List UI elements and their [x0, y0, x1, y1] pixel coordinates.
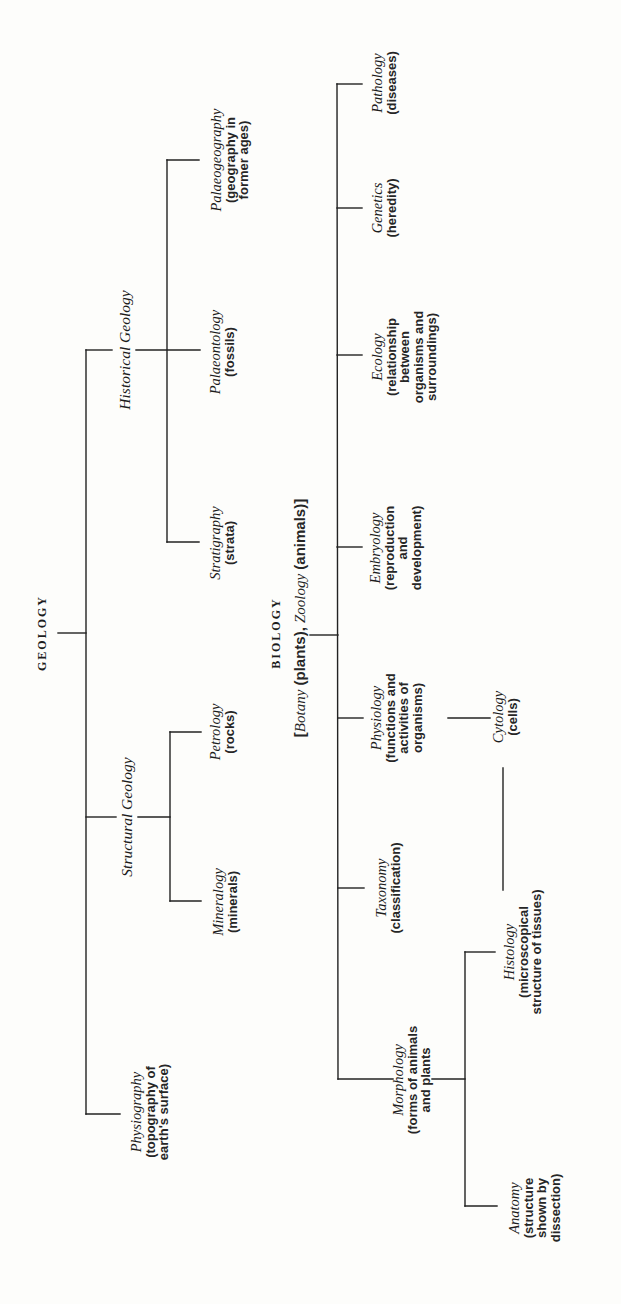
node-cytology: Cytology (cells)	[491, 691, 519, 743]
biology-root-label: BIOLOGY	[269, 597, 284, 668]
historical-geology-label: Historical Geology	[116, 287, 134, 412]
physiology-desc-line1: (functions and	[384, 673, 398, 763]
morphology-desc-line2: and plants	[419, 1026, 433, 1134]
histology-desc-line2: structure of tissues)	[530, 890, 544, 1015]
structural-geology-label: Structural Geology	[118, 754, 136, 879]
genetics-title: Genetics	[370, 178, 385, 237]
pathology-desc: (diseases)	[384, 51, 398, 115]
embryology-desc-line3: development)	[410, 506, 424, 591]
anatomy-desc-line3: dissection)	[549, 1174, 563, 1243]
genetics-desc: (heredity)	[384, 178, 398, 237]
node-genetics: Genetics (heredity)	[370, 178, 398, 237]
mineralogy-title: Mineralogy	[211, 868, 226, 936]
anatomy-desc-line2: shown by	[535, 1174, 549, 1243]
geology-root-label: GEOLOGY	[35, 595, 50, 671]
mineralogy-desc: (minerals)	[225, 868, 239, 936]
node-physiology: Physiology (functions and activities of …	[369, 673, 424, 763]
ecology-title: Ecology	[370, 311, 385, 403]
physiography-title: Physiography	[129, 1064, 144, 1160]
node-physiography: Physiography (topography of earth's surf…	[129, 1064, 171, 1160]
physiography-desc-line1: (topography of	[144, 1064, 158, 1160]
node-pathology: Pathology (diseases)	[370, 51, 398, 115]
biology-subtitle: [Botany (plants), Zoology (animals)]	[291, 499, 309, 737]
botany-label: Botany	[292, 690, 308, 733]
node-palaeontology: Palaeontology (fossils)	[208, 310, 236, 395]
morphology-desc-line1: (forms of animals	[406, 1026, 420, 1134]
physiology-desc-line3: organisms)	[411, 673, 425, 763]
stratigraphy-desc: (strata)	[222, 506, 236, 579]
palaeontology-desc: (fossils)	[222, 310, 236, 395]
cytology-title: Cytology	[491, 691, 506, 743]
palaeontology-title: Palaeontology	[208, 310, 223, 395]
botany-desc: (plants),	[291, 623, 308, 690]
palaeogeography-desc-line2: former ages)	[237, 108, 251, 211]
anatomy-desc-line1: (structure	[522, 1174, 536, 1243]
node-histology: Histology (microscopical structure of ti…	[502, 890, 544, 1015]
node-petrology: Petrology (rocks)	[208, 704, 236, 761]
taxonomy-title: Taxonomy	[374, 842, 389, 933]
palaeogeography-desc-line1: (geography in	[224, 108, 238, 211]
node-stratigraphy: Stratigraphy (strata)	[208, 506, 236, 579]
petrology-title: Petrology	[208, 704, 223, 761]
morphology-title: Morphology	[391, 1026, 406, 1134]
zoology-desc: (animals)]	[291, 499, 308, 574]
tree-connector-lines	[0, 0, 621, 1304]
node-morphology: Morphology (forms of animals and plants	[391, 1026, 433, 1134]
ecology-desc-line4: surroundings)	[426, 311, 440, 403]
embryology-title: Embryology	[368, 506, 383, 591]
ecology-desc-line3: organisms and	[412, 311, 426, 403]
zoology-label: Zoology	[292, 574, 308, 623]
cytology-desc: (cells)	[505, 691, 519, 743]
histology-desc-line1: (microscopical	[517, 890, 531, 1015]
stratigraphy-title: Stratigraphy	[208, 506, 223, 579]
petrology-desc: (rocks)	[222, 704, 236, 761]
node-ecology: Ecology (relationship between organisms …	[370, 311, 439, 403]
ecology-desc-line2: between	[399, 311, 413, 403]
palaeogeography-title: Palaeogeography	[209, 108, 224, 211]
physiology-title: Physiology	[369, 673, 384, 763]
node-embryology: Embryology (reproduction and development…	[368, 506, 423, 591]
node-mineralogy: Mineralogy (minerals)	[211, 868, 239, 936]
ecology-desc-line1: (relationship	[385, 311, 399, 403]
pathology-title: Pathology	[370, 51, 385, 115]
node-palaeogeography: Palaeogeography (geography in former age…	[209, 108, 251, 211]
classification-diagram-page: GEOLOGY Historical Geology Structural Ge…	[0, 0, 621, 1304]
anatomy-title: Anatomy	[507, 1174, 522, 1243]
embryology-desc-line1: (reproduction	[383, 506, 397, 591]
physiology-desc-line2: activities of	[397, 673, 411, 763]
taxonomy-desc: (classification)	[388, 842, 402, 933]
biology-main-trunk	[337, 84, 338, 1079]
physiography-desc-line2: earth's surface)	[157, 1064, 171, 1160]
embryology-desc-line2: and	[396, 506, 410, 591]
biology-subtitle-open: [	[291, 732, 308, 737]
node-taxonomy: Taxonomy (classification)	[374, 842, 402, 933]
histology-title: Histology	[502, 890, 517, 1015]
node-anatomy: Anatomy (structure shown by dissection)	[507, 1174, 562, 1243]
